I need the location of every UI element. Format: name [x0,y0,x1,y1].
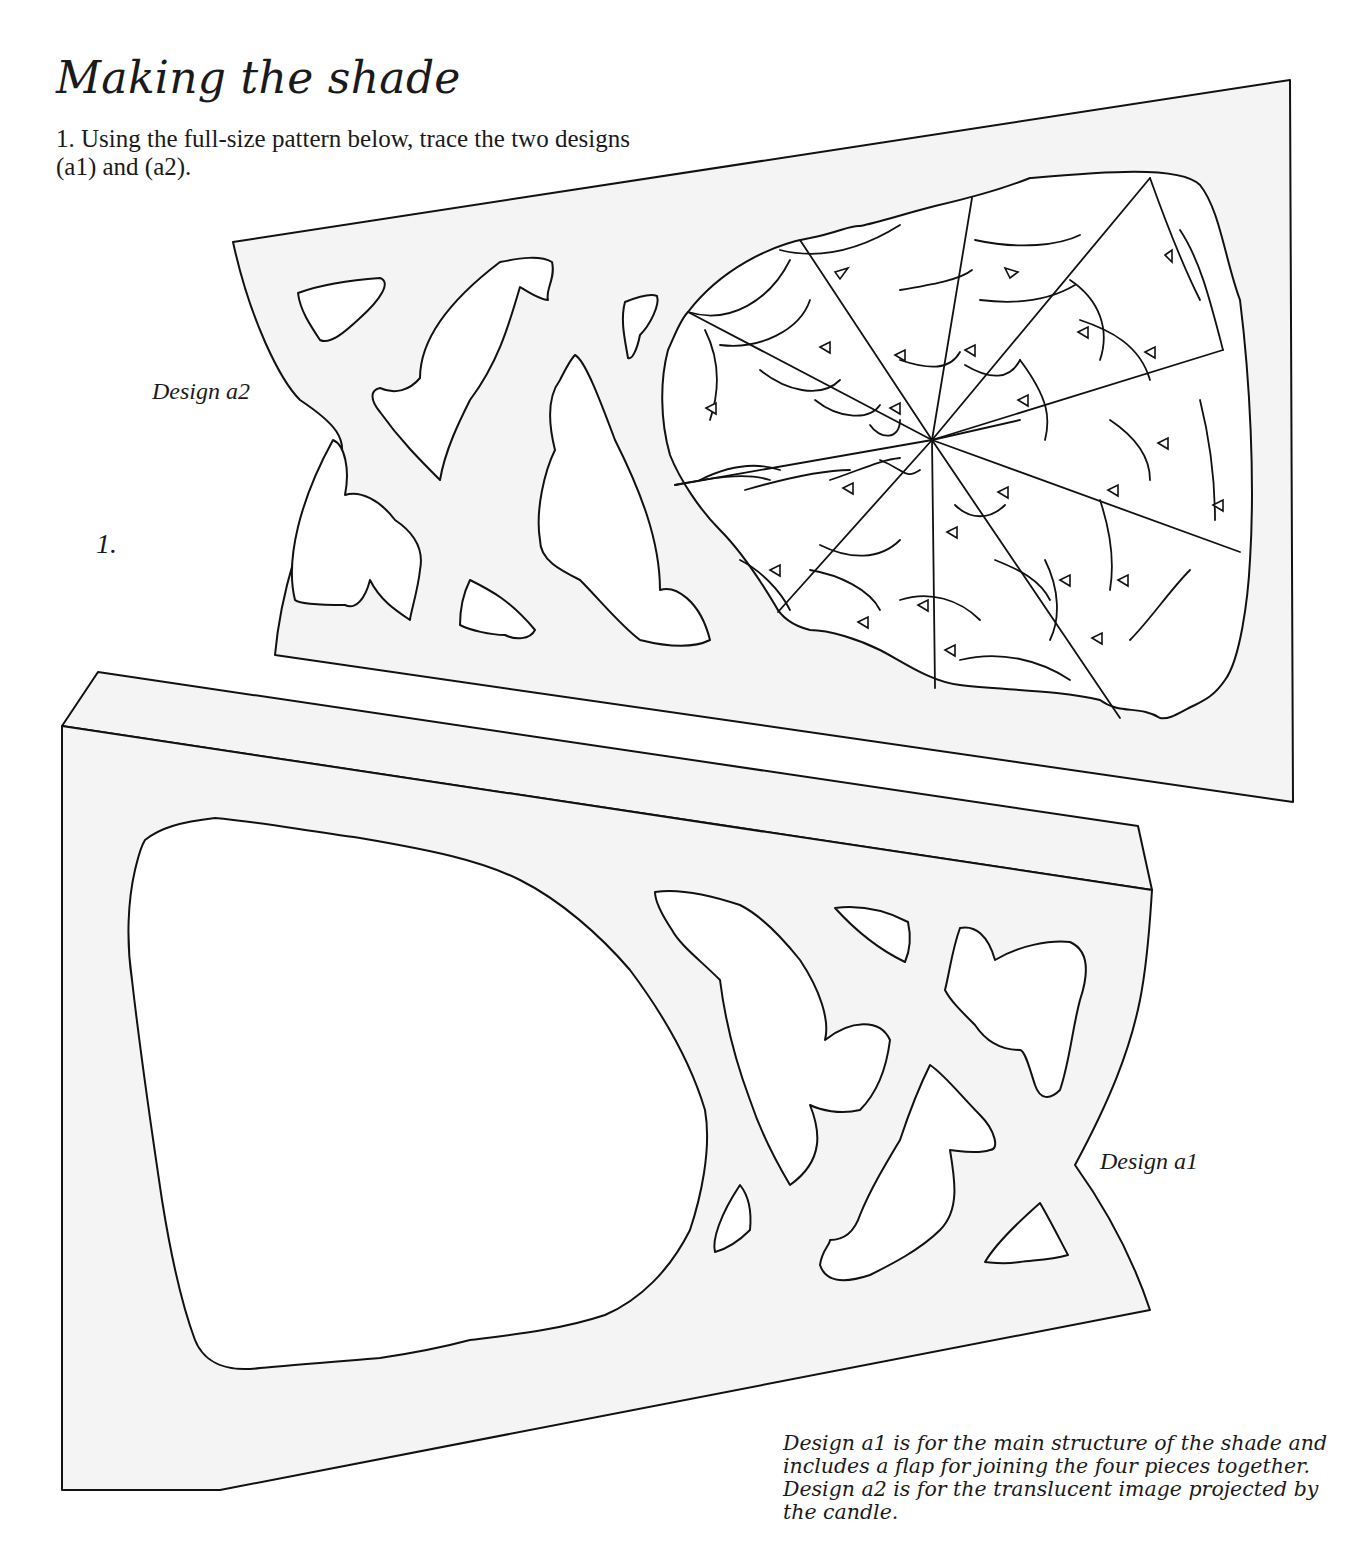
design-a2-panel [233,80,1293,802]
design-a1-panel [62,672,1152,1490]
design-a1-label: Design a1 [1100,1148,1198,1175]
design-a2-label: Design a2 [152,378,250,405]
pattern-illustration [0,0,1356,1566]
step-number: 1. [96,528,117,560]
figure-caption: Design a1 is for the main structure of t… [783,1432,1343,1525]
